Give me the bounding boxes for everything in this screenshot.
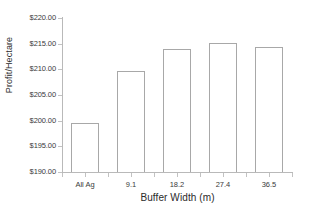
x-axis-tick <box>62 173 63 177</box>
bar-9.1 <box>117 71 145 172</box>
x-axis-tick <box>131 173 132 177</box>
y-axis-tick-label: $190.00 <box>8 167 56 176</box>
y-axis-tick-label: $210.00 <box>8 64 56 73</box>
x-axis-tick-label: 36.5 <box>246 180 292 189</box>
x-axis-tick <box>154 173 155 177</box>
x-axis-tick <box>177 173 178 177</box>
y-axis-tick <box>58 18 62 19</box>
bar-all-ag <box>71 123 99 172</box>
y-axis-tick <box>58 69 62 70</box>
x-axis-tick-label: 9.1 <box>108 180 154 189</box>
x-axis-tick <box>108 173 109 177</box>
y-axis-tick-label: $200.00 <box>8 116 56 125</box>
x-axis-tick <box>246 173 247 177</box>
y-axis-tick <box>58 44 62 45</box>
x-axis-title: Buffer Width (m) <box>62 192 293 203</box>
y-axis-tick <box>58 121 62 122</box>
x-axis-tick <box>223 173 224 177</box>
y-axis-line <box>62 17 63 173</box>
x-axis-tick-label: 18.2 <box>154 180 200 189</box>
y-axis-tick-label: $220.00 <box>8 13 56 22</box>
profit-per-hectare-bar-chart: Profit/Hectare $190.00$195.00$200.00$205… <box>0 0 310 217</box>
y-axis-tick-label: $215.00 <box>8 39 56 48</box>
x-axis-tick <box>269 173 270 177</box>
y-axis-tick <box>58 95 62 96</box>
x-axis-tick <box>85 173 86 177</box>
bar-18.2 <box>163 49 191 172</box>
y-axis-tick-label: $205.00 <box>8 90 56 99</box>
y-axis-tick <box>58 146 62 147</box>
bar-36.5 <box>255 47 283 172</box>
y-axis-tick-label: $195.00 <box>8 141 56 150</box>
x-axis-tick-label: 27.4 <box>200 180 246 189</box>
x-axis-tick <box>200 173 201 177</box>
bar-27.4 <box>209 43 237 172</box>
x-axis-tick-label: All Ag <box>62 180 108 189</box>
x-axis-tick <box>292 173 293 177</box>
